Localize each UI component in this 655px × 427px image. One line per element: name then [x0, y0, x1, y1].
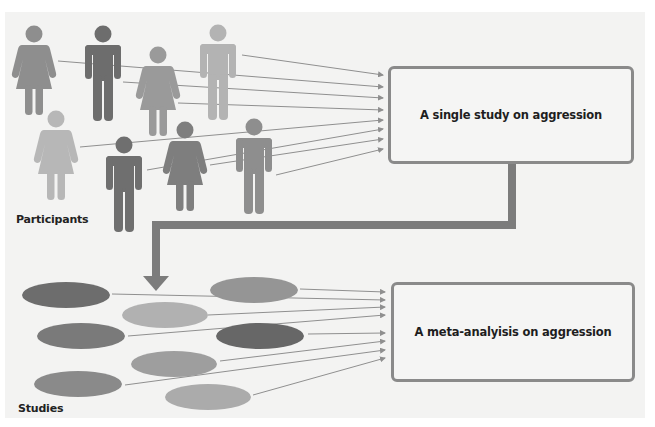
female-participant-icon	[34, 111, 78, 201]
male-participant-icon	[85, 26, 121, 122]
participants-label: Participants	[16, 213, 88, 226]
study-ellipse	[34, 371, 122, 397]
male-participant-icon	[106, 137, 142, 233]
meta-analysis-box: A meta-analyisis on aggression	[391, 282, 635, 382]
study-ellipse	[216, 323, 304, 349]
study-ellipse	[165, 384, 251, 410]
study-ellipse	[122, 302, 208, 328]
female-participant-icon	[163, 122, 207, 212]
down-arrow-icon	[143, 276, 169, 291]
participants-group	[12, 25, 272, 233]
single-study-label: A single study on aggression	[420, 108, 602, 122]
study-ellipse	[210, 277, 298, 303]
male-participant-icon	[200, 25, 236, 121]
study-ellipse	[131, 351, 217, 377]
meta-analysis-label: A meta-analyisis on aggression	[415, 325, 612, 339]
single-study-box: A single study on aggression	[388, 66, 634, 164]
studies-group	[22, 277, 304, 410]
study-ellipse	[37, 323, 125, 349]
studies-label: Studies	[18, 402, 63, 415]
study-ellipse	[22, 282, 110, 308]
female-participant-icon	[136, 47, 180, 137]
female-participant-icon	[12, 26, 56, 116]
